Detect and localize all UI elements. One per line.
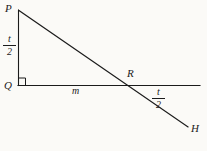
height-fraction-label: t 2	[3, 34, 16, 57]
right-angle-marker	[19, 78, 26, 86]
base-length-label: m	[72, 86, 79, 96]
height-denominator: 2	[3, 47, 16, 58]
figure-canvas	[0, 0, 207, 151]
angle-numerator: t	[152, 87, 165, 98]
point-label-q: Q	[4, 80, 12, 91]
point-label-h: H	[191, 123, 199, 134]
angle-fraction-label: t 2	[152, 87, 165, 110]
point-label-p: P	[5, 3, 12, 14]
point-label-r: R	[127, 68, 134, 79]
geometry-figure: P Q R H m t 2 t 2	[0, 0, 207, 151]
height-numerator: t	[3, 34, 16, 45]
angle-denominator: 2	[152, 100, 165, 111]
